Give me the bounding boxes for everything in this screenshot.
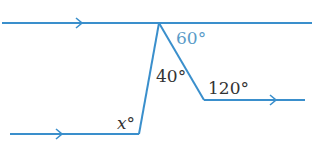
angle-label-40: 40° bbox=[156, 66, 186, 86]
angle-label-120: 120° bbox=[208, 78, 249, 98]
angle-label-60: 60° bbox=[176, 28, 206, 48]
angle-label-x: x° bbox=[117, 113, 135, 133]
geometry-diagram: 60° 40° 120° x° bbox=[0, 0, 312, 144]
